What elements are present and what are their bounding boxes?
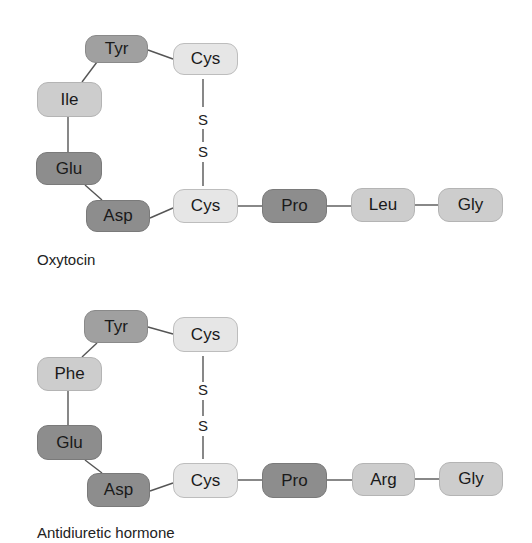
residue-cys-bottom: Cys	[173, 189, 238, 223]
disulfide-sulfur-2: S	[196, 417, 210, 434]
residue-cys-bottom: Cys	[173, 463, 238, 498]
residue-tyr: Tyr	[85, 35, 148, 63]
disulfide-sulfur-2: S	[196, 143, 210, 160]
residue-pro: Pro	[262, 189, 327, 223]
residue-cys-top: Cys	[173, 317, 238, 352]
residue-asp: Asp	[86, 200, 150, 232]
disulfide-sulfur-1: S	[196, 111, 210, 128]
residue-arg: Arg	[352, 463, 415, 496]
residue-tyr: Tyr	[84, 310, 148, 343]
oxytocin-caption: Oxytocin	[37, 251, 95, 268]
residue-gly: Gly	[438, 188, 503, 222]
peptide-diagram-canvas: Tyr Cys Ile S S Glu Asp Cys Pro Leu Gly …	[0, 0, 532, 543]
adh-caption: Antidiuretic hormone	[37, 524, 175, 541]
residue-pro: Pro	[262, 463, 327, 498]
residue-glu: Glu	[37, 425, 102, 460]
residue-phe: Phe	[37, 357, 102, 391]
residue-gly: Gly	[439, 462, 503, 496]
residue-glu: Glu	[36, 152, 102, 185]
residue-cys-top: Cys	[173, 43, 238, 75]
residue-ile: Ile	[37, 82, 102, 117]
disulfide-sulfur-1: S	[196, 381, 210, 398]
residue-leu: Leu	[351, 188, 415, 222]
residue-asp: Asp	[87, 473, 150, 507]
